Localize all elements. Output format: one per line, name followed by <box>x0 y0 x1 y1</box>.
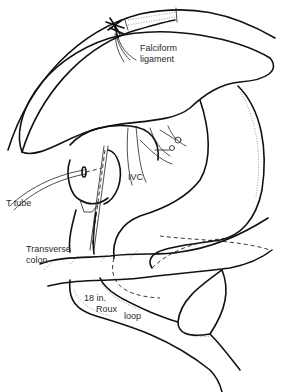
abdominal-wall <box>8 8 275 152</box>
label-transverse-colon: Transverse colon <box>26 244 71 266</box>
label-falciform-line2: ligament <box>140 54 177 65</box>
surgical-diagram: Falciform ligament IVC T tube Transverse… <box>0 0 282 392</box>
label-ivc: IVC <box>128 172 143 183</box>
bile-duct-anastomosis <box>68 150 120 254</box>
label-transverse-line2: colon <box>26 255 71 266</box>
label-roux-loop: 18 in. Roux loop <box>84 293 141 322</box>
roux-loop <box>70 270 240 392</box>
label-roux-line1: 18 in. <box>84 293 141 304</box>
label-falciform-line1: Falciform <box>140 43 177 54</box>
label-transverse-line1: Transverse <box>26 244 71 255</box>
label-t-tube: T tube <box>6 198 31 209</box>
transverse-colon <box>40 218 272 298</box>
label-falciform-ligament: Falciform ligament <box>140 43 177 65</box>
